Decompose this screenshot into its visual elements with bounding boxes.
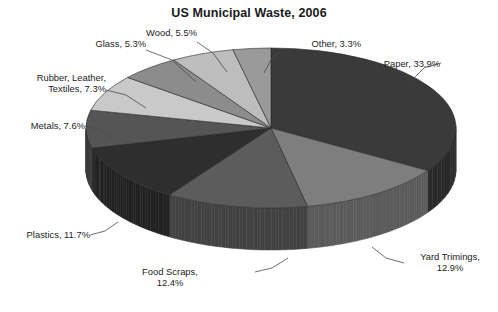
pie-slice-side [264, 208, 268, 250]
pie-slice-side [279, 208, 283, 250]
slice-label-glass: Glass, 5.3% [58, 38, 146, 49]
pie-slice-side [333, 203, 337, 246]
pie-slice-side [376, 193, 379, 236]
pie-slice-side [239, 207, 243, 249]
pie-slice-side [133, 181, 135, 224]
slice-label-metals: Metals, 7.6% [11, 120, 85, 131]
pie-slice-side [357, 198, 360, 241]
pie-slice-side [311, 206, 315, 248]
pie-slice-side [343, 201, 346, 244]
pie-slice-side [257, 208, 261, 250]
pie-slice-side [445, 151, 448, 197]
slice-label-food-scraps: Food Scraps, 12.4% [118, 266, 222, 289]
pie-slice-side [347, 200, 350, 243]
pie-slice-side [164, 193, 167, 236]
pie-slice-side [153, 190, 156, 233]
pie-slice-side [250, 207, 254, 249]
slice-label-paper: Paper, 33.9% [352, 58, 440, 69]
pie-slice-side [318, 205, 322, 247]
pie-chart-figure: US Municipal Waste, 2006 Paper, 33.9% Ya… [0, 0, 498, 312]
pie-slice-side [350, 200, 353, 243]
pie-slice-side [261, 208, 265, 250]
pie-slice-side [229, 206, 233, 248]
pie-top-faces [86, 48, 456, 208]
pie-slice-side [272, 208, 276, 250]
pie-slice-side [307, 206, 311, 248]
pie-slice-side [360, 197, 363, 240]
pie-slice-side [433, 163, 438, 209]
slice-label-yard-trimings: Yard Trimings, 12.9% [404, 251, 496, 274]
pie-slice-side [218, 205, 221, 247]
slice-label-other: Other, 3.3% [283, 38, 361, 49]
pie-slice-side [138, 184, 140, 227]
pie-slice-side [161, 192, 164, 235]
pie-slice-side [148, 188, 151, 231]
pie-slice-side [211, 204, 214, 246]
pie-slice-side [282, 208, 286, 250]
pie-slice-side [336, 202, 339, 245]
pie-slice-side [131, 180, 133, 223]
slice-label-wood: Wood, 5.5% [121, 27, 197, 38]
slice-label-rubber: Rubber, Leather, Textiles, 7.3% [8, 72, 106, 95]
slice-label-plastics: Plastics, 11.7% [14, 229, 90, 240]
pie-slice-side [340, 202, 343, 245]
pie-slice-side [441, 155, 445, 201]
pie-slice-side [243, 207, 247, 249]
pie-slice-side [145, 187, 148, 230]
pie-slice-side [215, 204, 218, 246]
pie-slice-side [315, 205, 319, 247]
pie-slice-side [254, 208, 258, 250]
pie-slice-side [286, 208, 290, 250]
leader-line-food-scraps [255, 258, 288, 272]
leader-line-plastics [90, 222, 118, 235]
leader-line-yard-trimings [372, 247, 404, 263]
pie-slice-side [143, 186, 145, 229]
pie-slice-side [370, 195, 373, 238]
pie-slice-side [156, 191, 159, 234]
pie-slice-side [167, 194, 170, 237]
pie-slice-side [236, 207, 240, 249]
pie-slice-side [448, 147, 451, 193]
pie-slice-side [363, 196, 366, 239]
pie-slice-side [140, 185, 142, 228]
pie-slice-side [275, 208, 279, 250]
pie-slice-side [329, 203, 333, 246]
pie-slice-side [246, 207, 250, 249]
pie-slice-side [232, 206, 236, 248]
pie-slice-side [353, 199, 356, 242]
pie-slice-side [437, 159, 441, 205]
pie-slice-side [428, 167, 433, 213]
pie-slice-side [373, 194, 376, 237]
pie-slice-side [150, 189, 153, 232]
pie-slice-side [225, 206, 229, 248]
pie-slice-side [268, 208, 272, 250]
pie-slice-side [367, 196, 370, 239]
pie-slice-side [158, 191, 161, 234]
pie-slice-side [322, 204, 326, 246]
pie-slice-side [136, 183, 138, 226]
pie-slice-side [222, 205, 225, 247]
pie-slice-side [326, 204, 330, 246]
pie-slice-side [451, 143, 453, 189]
